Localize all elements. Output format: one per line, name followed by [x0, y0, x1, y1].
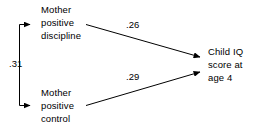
path-coefficient-control-to-iq: .29 [126, 71, 140, 82]
node-line-1: Mother [41, 86, 74, 99]
node-line-1: Child IQ [208, 45, 243, 58]
path-diagram: Mother positive discipline Mother positi… [0, 0, 253, 132]
node-line-3: control [41, 112, 74, 125]
path-line-control-to-iq [86, 72, 200, 106]
node-mother-positive-control: Mother positive control [41, 86, 74, 125]
node-line-1: Mother [41, 3, 81, 16]
node-child-iq-score-age-4: Child IQ score at age 4 [208, 45, 243, 84]
path-line-discipline-to-iq [86, 25, 200, 58]
path-coefficient-correlation: .31 [9, 58, 23, 69]
node-line-2: positive [41, 16, 81, 29]
node-line-2: positive [41, 99, 74, 112]
path-coefficient-discipline-to-iq: .26 [126, 19, 140, 30]
node-mother-positive-discipline: Mother positive discipline [41, 3, 81, 42]
node-line-3: discipline [41, 29, 81, 42]
node-line-2: score at [208, 58, 243, 71]
node-line-3: age 4 [208, 71, 243, 84]
